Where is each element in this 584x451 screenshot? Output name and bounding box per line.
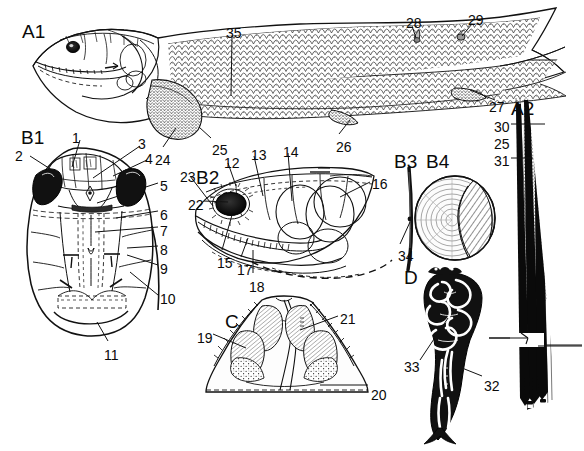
callout-number-15: 15 — [217, 256, 233, 270]
callout-number-34: 34 — [398, 249, 414, 263]
callout-number-10: 10 — [160, 292, 176, 306]
leader-line-32 — [462, 368, 482, 376]
leader-line-10 — [130, 272, 158, 295]
callout-number-24: 24 — [155, 153, 171, 167]
callout-number-12: 12 — [224, 156, 240, 170]
callout-number-35: 35 — [226, 26, 242, 40]
callout-number-19: 19 — [197, 331, 213, 345]
callout-number-31: 31 — [494, 154, 510, 168]
callout-number-23: 23 — [180, 170, 196, 184]
leader-line-14 — [288, 153, 292, 201]
callout-number-8: 8 — [160, 243, 168, 257]
callout-number-18: 18 — [249, 280, 265, 294]
callout-number-5: 5 — [160, 179, 168, 193]
callout-number-29: 29 — [468, 13, 484, 27]
panel-label-b1: B1 — [21, 128, 44, 147]
callout-number-4: 4 — [145, 152, 153, 166]
callout-number-28: 28 — [406, 16, 422, 30]
callout-number-27: 27 — [489, 100, 505, 114]
callout-number-21: 21 — [340, 312, 356, 326]
panel-label-b3: B3 — [394, 152, 417, 171]
callout-number-22: 22 — [188, 198, 204, 212]
callout-number-14: 14 — [283, 145, 299, 159]
leader-line-25 — [199, 127, 211, 138]
leader-line-9 — [127, 255, 158, 265]
leader-line-15 — [222, 215, 232, 250]
panel-b4-artwork — [411, 176, 495, 264]
callout-number-25: 25 — [212, 143, 228, 157]
leader-line-34 — [400, 222, 410, 244]
panel-label-d: D — [404, 268, 418, 287]
callout-number-26: 26 — [336, 140, 352, 154]
callout-number-20: 20 — [371, 388, 387, 402]
callout-number-7: 7 — [160, 224, 168, 238]
figure-plate: A1A2B1B2B3B4CD 1234567891011121314151617… — [0, 0, 584, 451]
panel-label-b2: B2 — [196, 168, 219, 187]
callout-number-33: 33 — [404, 360, 420, 374]
leader-line-11 — [97, 322, 108, 341]
callout-number-3: 3 — [138, 137, 146, 151]
callout-number-1: 1 — [72, 131, 80, 145]
callout-number-16: 16 — [372, 177, 388, 191]
callout-number-9: 9 — [160, 262, 168, 276]
callout-number-17: 17 — [237, 263, 253, 277]
panel-label-a2: A2 — [511, 99, 534, 118]
leader-line-17 — [241, 238, 248, 257]
callout-number-32: 32 — [484, 379, 500, 393]
leader-line-7 — [95, 227, 158, 232]
callout-number-13: 13 — [251, 148, 267, 162]
callout-number-11: 11 — [104, 348, 119, 362]
callout-number-2: 2 — [15, 149, 23, 163]
callout-number-6: 6 — [160, 208, 168, 222]
callout-number-25: 25 — [494, 137, 510, 151]
panel-d-artwork — [424, 267, 482, 444]
callout-number-30: 30 — [494, 120, 510, 134]
panel-label-c: C — [225, 312, 239, 331]
panel-label-b4: B4 — [426, 152, 449, 171]
panel-label-a1: A1 — [22, 22, 45, 41]
panel-b1-artwork — [27, 148, 159, 336]
